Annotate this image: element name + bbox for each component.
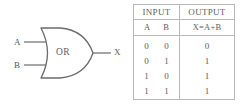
cell-a: 1	[143, 72, 150, 81]
subheader-cell-expression: X=A+B	[180, 20, 234, 35]
table-header-row: INPUT OUTPUT	[134, 5, 234, 20]
cell-x: 0	[204, 42, 211, 51]
table-row: 0 1	[134, 54, 179, 69]
cell-a: 0	[143, 57, 150, 66]
gate-type-label: OR	[56, 48, 70, 57]
table-row-output: 1	[180, 54, 234, 69]
cell-b: 0	[163, 42, 170, 51]
input-a-label: A	[14, 38, 21, 47]
table-body: 0 0 0 1 1 0 1 1 0 1 1	[134, 36, 234, 99]
cell-x: 1	[204, 87, 211, 96]
table-row: 1 0	[134, 69, 179, 84]
cell-x: 1	[204, 57, 211, 66]
input-b-label: B	[14, 61, 20, 70]
or-gate-diagram: A B OR X	[0, 0, 130, 104]
cell-b: 1	[163, 87, 170, 96]
table-subheader-row: A B X=A+B	[134, 20, 234, 36]
header-cell-input: INPUT	[134, 5, 180, 19]
input-columns: 0 0 0 1 1 0 1 1	[134, 36, 180, 99]
cell-b: 0	[163, 72, 170, 81]
subheader-cell-inputs: A B	[134, 20, 180, 35]
cell-x: 1	[204, 72, 211, 81]
cell-b: 1	[163, 57, 170, 66]
truth-table: INPUT OUTPUT A B X=A+B 0 0 0 1	[133, 4, 235, 100]
cell-a: 1	[143, 87, 150, 96]
subheader-a-label: A	[144, 23, 150, 32]
output-expression-label: X=A+B	[193, 23, 222, 32]
header-output-label: OUTPUT	[188, 8, 225, 17]
table-row: 1 1	[134, 84, 179, 99]
output-column: 0 1 1 1	[180, 36, 234, 99]
header-cell-output: OUTPUT	[180, 5, 234, 19]
output-x-label: X	[114, 48, 121, 57]
table-row-output: 0	[180, 39, 234, 54]
table-row: 0 0	[134, 39, 179, 54]
header-input-label: INPUT	[143, 8, 171, 17]
subheader-ab-group: A B	[144, 23, 169, 32]
subheader-b-label: B	[163, 23, 169, 32]
cell-a: 0	[143, 42, 150, 51]
table-row-output: 1	[180, 84, 234, 99]
table-row-output: 1	[180, 69, 234, 84]
